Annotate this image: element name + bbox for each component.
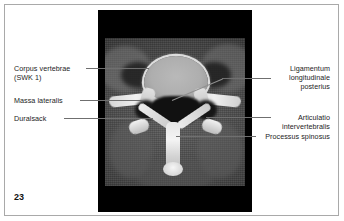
label-massa-lateralis-line1: Massa lateralis [14,96,63,105]
label-articulatio-line2: intervertebralis [234,122,330,131]
leader-ligamentum-horizontal [222,78,271,79]
figure-root: Corpus vertebrae (SWK 1) Massa lateralis… [0,0,344,221]
label-corpus-vertebrae-line2: (SWK 1) [14,73,70,82]
label-corpus-vertebrae-line1: Corpus vertebrae [14,64,70,73]
label-articulatio-intervertebralis: Articulatio intervertebralis [234,113,330,131]
figure-number: 23 [14,192,24,202]
label-ligamentum-line3: posterius [234,82,330,91]
label-duralsack-line1: Duralsack [14,114,46,123]
leader-massa-lateralis [80,100,144,101]
axial-ct-image [105,38,245,186]
leader-corpus-vertebrae [86,68,149,69]
label-corpus-vertebrae: Corpus vertebrae (SWK 1) [14,64,70,82]
scan-panel [98,10,252,212]
label-duralsack: Duralsack [14,114,46,123]
spinous-process-tip [163,162,183,176]
leader-articulatio-intervertebralis [206,117,271,118]
label-massa-lateralis: Massa lateralis [14,96,63,105]
leader-duralsack [64,118,153,119]
leader-processus-spinosus [176,136,256,137]
label-ligamentum-line1: Ligamentum [234,64,330,73]
